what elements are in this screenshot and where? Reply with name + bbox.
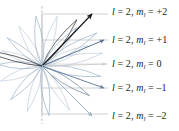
- quantum-number-m-symbol: m: [136, 6, 143, 17]
- m-equals-sign: =: [148, 110, 154, 121]
- state-label-m-plus-1: l = 2, ml = +1: [112, 34, 167, 49]
- angular-momentum-vector-model-figure: l = 2, ml = +2 l = 2, ml = +1 l = 2, ml …: [0, 0, 179, 131]
- m-value: +1: [156, 34, 167, 45]
- m-value: +2: [156, 6, 167, 17]
- quantum-number-m-symbol: m: [136, 82, 143, 93]
- quantum-number-m-symbol: m: [136, 34, 143, 45]
- state-label-layer: l = 2, ml = +2 l = 2, ml = +1 l = 2, ml …: [0, 0, 179, 131]
- quantum-number-m-symbol: m: [136, 110, 143, 121]
- state-label-m-minus-2: l = 2, ml = –2: [112, 110, 167, 125]
- m-equals-sign: =: [148, 6, 154, 17]
- state-label-m-plus-2: l = 2, ml = +2: [112, 6, 167, 21]
- state-label-m-zero: l = 2, ml = 0: [112, 58, 162, 73]
- quantum-number-m-symbol: m: [136, 58, 143, 69]
- m-equals-sign: =: [148, 82, 154, 93]
- m-equals-sign: =: [148, 34, 154, 45]
- m-value: –2: [156, 110, 166, 121]
- m-equals-sign: =: [148, 58, 154, 69]
- m-value: 0: [156, 58, 161, 69]
- m-value: –1: [156, 82, 166, 93]
- state-label-m-minus-1: l = 2, ml = –1: [112, 82, 167, 97]
